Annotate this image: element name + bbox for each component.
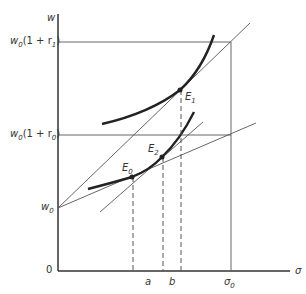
point-E1 bbox=[178, 88, 183, 93]
point-E2 bbox=[160, 155, 165, 160]
lower-budget-line bbox=[58, 123, 256, 208]
label-E2: E2 bbox=[148, 143, 159, 157]
origin-label: 0 bbox=[46, 264, 52, 275]
tick-sigma0: σ0 bbox=[224, 276, 235, 290]
y-axis-label: w bbox=[47, 12, 55, 23]
x-axis-label: σ bbox=[295, 265, 301, 276]
tick-a: a bbox=[145, 276, 151, 287]
upper-budget-line bbox=[58, 23, 250, 208]
label-E1: E1 bbox=[185, 91, 196, 105]
tick-w0-1-r0: w0(1 + r0) bbox=[10, 128, 60, 142]
tick-b: b bbox=[169, 276, 175, 287]
tick-w0-1-r1: w0(1 + r1) bbox=[10, 35, 60, 49]
upper-indifference-curve bbox=[102, 35, 214, 124]
tick-w0: w0 bbox=[41, 201, 54, 215]
label-E0: E0 bbox=[122, 162, 133, 176]
